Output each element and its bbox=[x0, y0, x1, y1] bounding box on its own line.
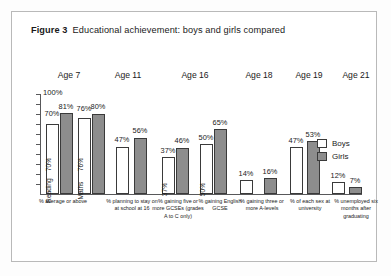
y-axis-tick bbox=[36, 164, 41, 165]
bar-value-inside: 37% bbox=[162, 183, 169, 196]
y-axis-tick bbox=[36, 184, 41, 185]
bar-label-boys-five-gcses: 37% bbox=[161, 147, 176, 154]
y-axis-max-label: 100% bbox=[43, 88, 62, 97]
category-label-unemployed: % unemployed six months after graduating bbox=[328, 198, 384, 220]
bar-girls-a-levels[interactable] bbox=[264, 178, 277, 194]
age-group-header-row: Age 7 Age 11 Age 16 Age 18 Age 19 Age 21 bbox=[32, 70, 362, 84]
bar-girls-maths[interactable] bbox=[92, 114, 105, 194]
bar-boys-english-gcse[interactable]: 50% bbox=[200, 144, 213, 194]
age-group-label-age-11: Age 11 bbox=[100, 70, 156, 80]
bar-label-boys-unemployed: 12% bbox=[331, 172, 346, 179]
figure-number: Figure 3 bbox=[31, 25, 68, 35]
legend-swatch-girls-icon bbox=[317, 152, 327, 161]
bar-label-boys-english-gcse: 50% bbox=[199, 134, 214, 141]
bar-label-boys-maths: 76% bbox=[77, 105, 92, 112]
age-group-label-age-16: Age 16 bbox=[158, 70, 232, 80]
bar-label-girls-five-gcses: 46% bbox=[175, 137, 190, 144]
age-group-label-age-7: Age 7 bbox=[38, 70, 100, 80]
bar-boys-university[interactable] bbox=[290, 147, 303, 194]
bar-label-girls-a-levels: 16% bbox=[263, 168, 278, 175]
y-axis-tick bbox=[36, 124, 41, 125]
figure-page: Figure 3Educational achievement: boys an… bbox=[0, 0, 391, 276]
bar-value-inside: 70% bbox=[46, 158, 53, 171]
chart-legend: Boys Girls bbox=[317, 139, 377, 165]
age-group-label-age-21: Age 21 bbox=[332, 70, 380, 80]
age-group-label-age-18: Age 18 bbox=[232, 70, 286, 80]
legend-item-girls[interactable]: Girls bbox=[317, 152, 377, 161]
bar-girls-unemployed[interactable] bbox=[349, 187, 362, 194]
y-axis-tick bbox=[36, 174, 41, 175]
bar-girls-five-gcses[interactable] bbox=[176, 148, 189, 194]
category-label-five-gcses: % gaining five or more GCSEs (grades A t… bbox=[152, 198, 204, 220]
legend-label-girls: Girls bbox=[332, 152, 348, 161]
bar-label-boys-university: 47% bbox=[289, 137, 304, 144]
y-axis-tick bbox=[36, 104, 41, 105]
bar-girls-english-gcse[interactable] bbox=[214, 129, 227, 194]
y-axis-tick bbox=[36, 144, 41, 145]
bar-boys-unemployed[interactable] bbox=[332, 182, 345, 194]
figure-title: Figure 3Educational achievement: boys an… bbox=[31, 25, 285, 35]
figure-title-text: Educational achievement: boys and girls … bbox=[73, 25, 286, 35]
figure-frame: Figure 3Educational achievement: boys an… bbox=[11, 11, 377, 262]
bar-girls-stay-on-school[interactable] bbox=[134, 138, 147, 194]
bar-boys-stay-on-school[interactable] bbox=[116, 147, 129, 194]
age-group-label-age-19: Age 19 bbox=[284, 70, 334, 80]
bar-girls-reading[interactable] bbox=[60, 113, 73, 194]
category-label-a-levels: % gaining three or more A-levels bbox=[237, 198, 287, 213]
bar-boys-maths[interactable]: 76% Maths bbox=[78, 118, 91, 194]
bar-label-girls-reading: 81% bbox=[59, 103, 74, 110]
category-label-english-gcse: % gaining English GCSE bbox=[198, 198, 242, 213]
category-label-average-or-above: % average or above bbox=[38, 198, 88, 205]
y-axis-tick bbox=[36, 114, 41, 115]
bar-label-girls-unemployed: 7% bbox=[350, 177, 361, 184]
y-axis-tick bbox=[36, 94, 41, 95]
category-label-university: % of each sex at university bbox=[287, 198, 333, 213]
chart-axis-area: 100% 70% Reading 70% 81% 76% Maths 76% bbox=[32, 90, 362, 202]
bar-label-girls-stay-on-school: 56% bbox=[133, 127, 148, 134]
bar-label-girls-university: 53% bbox=[306, 131, 321, 138]
bar-value-inside: 76% bbox=[78, 158, 85, 171]
legend-item-boys[interactable]: Boys bbox=[317, 139, 377, 148]
bar-boys-five-gcses[interactable]: 37% bbox=[162, 157, 175, 194]
bar-label-boys-stay-on-school: 47% bbox=[115, 136, 130, 143]
bar-label-boys-a-levels: 14% bbox=[239, 170, 254, 177]
chart-plot-area: Age 7 Age 11 Age 16 Age 18 Age 19 Age 21 bbox=[32, 70, 362, 202]
bar-label-girls-maths: 80% bbox=[91, 103, 106, 110]
bar-value-inside: 50% bbox=[200, 183, 207, 196]
bar-boys-reading[interactable]: 70% Reading bbox=[46, 124, 59, 194]
y-axis-tick bbox=[36, 154, 41, 155]
legend-label-boys: Boys bbox=[332, 139, 350, 148]
bar-label-boys-reading: 70% bbox=[45, 110, 60, 117]
bar-boys-a-levels[interactable] bbox=[240, 180, 253, 194]
y-axis-tick bbox=[36, 134, 41, 135]
legend-swatch-boys-icon bbox=[317, 139, 327, 148]
bar-label-girls-english-gcse: 65% bbox=[213, 119, 228, 126]
